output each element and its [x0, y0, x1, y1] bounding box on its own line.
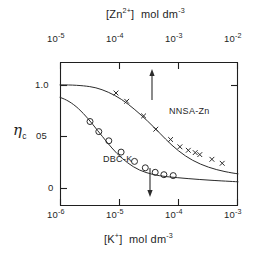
y-tick-label-1: 1.0	[35, 79, 49, 90]
y-tick-label-0: 0	[48, 182, 53, 193]
tick-mantissa: 10	[165, 209, 176, 220]
bottom-axis-title-bracket-close: ]	[119, 233, 122, 245]
bottom-axis-ticks	[61, 199, 238, 206]
tick-mantissa: 10	[224, 33, 235, 44]
marker-cross	[210, 157, 215, 162]
top-axis-title-units: mol dm	[141, 8, 178, 20]
tick-mantissa: 10	[106, 209, 117, 220]
top-axis-title-units-exp: -3	[178, 6, 185, 15]
arrow-up-icon	[149, 69, 154, 100]
marker-cross	[193, 150, 198, 155]
bottom-tick-label-3: 10-4	[165, 209, 183, 220]
top-axis-ticks	[61, 63, 238, 70]
tick-exponent: -4	[117, 31, 124, 40]
marker-cross	[168, 137, 173, 142]
tick-mantissa: 10	[47, 209, 58, 220]
bottom-axis-title: [K+] mol dm-3	[104, 233, 173, 245]
y-axis-title: ηc	[13, 121, 27, 139]
marker-circle	[142, 165, 148, 171]
marker-cross	[186, 148, 191, 153]
bottom-axis-title-units: mol dm	[129, 233, 166, 245]
eta-subscript: c	[22, 131, 26, 141]
series-label-nnsa-zn: NNSA-Zn	[169, 106, 210, 116]
marker-cross	[220, 161, 225, 166]
y-tick-label-05: 05	[36, 130, 47, 141]
tick-mantissa: 10	[224, 209, 235, 220]
bottom-axis-title-bracket: [K	[104, 233, 115, 245]
top-axis-title-bracket-close: ]	[131, 8, 134, 20]
bottom-tick-label-2: 10-5	[106, 209, 124, 220]
y-tick-text: 0	[48, 182, 53, 193]
bottom-axis-title-units-exp: -3	[166, 231, 173, 240]
top-axis-title: [Zn2+] mol dm-3	[106, 8, 185, 20]
tick-mantissa: 10	[47, 33, 58, 44]
series-curve-dbc-k	[60, 97, 238, 181]
y-tick-text: 1.0	[35, 79, 49, 90]
series-label-dbc-k: DBC-K	[103, 154, 133, 164]
top-axis-title-bracket: [Zn	[106, 8, 123, 20]
top-tick-label-1: 10-5	[47, 33, 65, 44]
bottom-tick-label-1: 10-6	[47, 209, 65, 220]
top-tick-label-4: 10-2	[224, 33, 242, 44]
plot-frame	[60, 62, 238, 206]
tick-exponent: -5	[58, 31, 65, 40]
top-tick-label-2: 10-4	[106, 33, 124, 44]
marker-cross	[178, 144, 183, 149]
marker-circle	[106, 138, 112, 144]
tick-exponent: -3	[176, 31, 183, 40]
marker-cross	[153, 127, 158, 132]
tick-exponent: -2	[235, 31, 242, 40]
tick-mantissa: 10	[165, 33, 176, 44]
top-tick-label-3: 10-3	[165, 33, 183, 44]
marker-cross	[114, 91, 119, 96]
marker-cross	[197, 152, 202, 157]
series-label-text: NNSA-Zn	[169, 106, 210, 116]
tick-exponent: -6	[58, 207, 65, 216]
bottom-tick-label-4: 10-3	[224, 209, 242, 220]
top-axis-title-charge: 2+	[123, 6, 132, 15]
tick-exponent: -3	[235, 207, 242, 216]
tick-exponent: -4	[176, 207, 183, 216]
y-tick-text: 05	[36, 130, 47, 141]
series-label-text: DBC-K	[103, 154, 133, 164]
tick-mantissa: 10	[106, 33, 117, 44]
eta-symbol: η	[13, 121, 22, 139]
tick-exponent: -5	[117, 207, 124, 216]
series-markers-dbc-k	[87, 119, 176, 179]
